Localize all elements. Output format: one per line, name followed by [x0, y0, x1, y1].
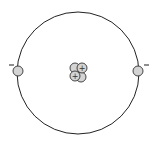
proton-plus-icon: +	[79, 64, 86, 73]
proton-plus-icon: +	[72, 72, 79, 81]
electron-left	[9, 65, 23, 76]
atom-diagram: + +	[0, 0, 156, 145]
electron-right	[133, 65, 149, 76]
nucleus: + +	[70, 63, 87, 82]
